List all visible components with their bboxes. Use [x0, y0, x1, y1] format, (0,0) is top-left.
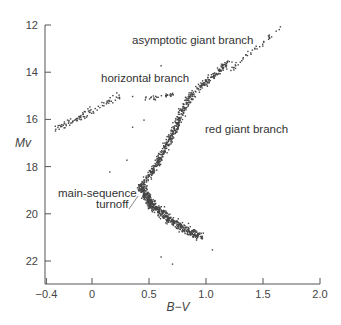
star-point: [199, 85, 200, 86]
star-point: [194, 229, 195, 230]
star-point: [160, 157, 161, 158]
star-point: [168, 134, 169, 135]
star-point: [153, 95, 154, 96]
star-point: [108, 103, 109, 104]
star-point: [151, 210, 152, 211]
star-point: [151, 178, 152, 179]
star-point: [152, 203, 153, 204]
star-point: [163, 153, 164, 154]
star-point: [167, 95, 168, 96]
star-point: [93, 111, 94, 112]
star-point: [174, 223, 175, 224]
star-point: [192, 96, 193, 97]
star-point: [175, 133, 176, 134]
star-point: [84, 111, 85, 112]
star-point: [144, 197, 145, 198]
star-point: [97, 109, 98, 110]
star-point: [160, 218, 161, 219]
star-point: [224, 64, 225, 65]
star-point: [154, 99, 155, 100]
star-point: [262, 44, 263, 45]
star-point: [158, 207, 159, 208]
star-point: [179, 117, 180, 118]
star-point: [184, 225, 185, 226]
star-point: [116, 92, 117, 93]
star-point: [222, 65, 223, 66]
star-point: [143, 193, 144, 194]
star-point: [162, 156, 163, 157]
star-point: [161, 160, 162, 161]
star-point: [91, 113, 92, 114]
star-point: [230, 70, 231, 71]
star-point: [99, 107, 100, 108]
star-point: [79, 118, 80, 119]
star-point: [168, 144, 169, 145]
y-tick-label: 22: [26, 255, 38, 267]
star-point: [179, 231, 180, 232]
star-point: [144, 190, 145, 191]
star-point: [164, 206, 165, 207]
data-points: [55, 26, 282, 265]
star-point: [233, 67, 234, 68]
star-point: [144, 184, 145, 185]
star-point: [199, 232, 200, 233]
star-point: [215, 74, 216, 75]
annotation-turnoff-2: turnoff: [96, 198, 129, 210]
star-point: [168, 219, 169, 220]
star-point: [70, 122, 71, 123]
star-point: [175, 118, 176, 119]
star-point: [162, 213, 163, 214]
star-point: [191, 90, 192, 91]
star-point: [164, 147, 165, 148]
star-point: [168, 214, 169, 215]
star-point: [150, 97, 151, 98]
star-point: [191, 234, 192, 235]
star-point: [163, 217, 164, 218]
star-point: [235, 62, 236, 63]
star-point: [170, 217, 171, 218]
star-point: [166, 212, 167, 213]
star-point: [182, 231, 183, 232]
star-point: [106, 102, 107, 103]
star-point: [90, 109, 91, 110]
star-point: [141, 187, 142, 188]
star-point: [206, 80, 207, 81]
star-point: [195, 86, 196, 87]
star-point: [155, 96, 156, 97]
y-axis-title: Mv: [15, 136, 32, 150]
star-point: [172, 133, 173, 134]
star-point: [201, 236, 202, 237]
star-point: [196, 238, 197, 239]
star-point: [182, 229, 183, 230]
star-point: [181, 226, 182, 227]
star-point: [103, 102, 104, 103]
star-point: [147, 196, 148, 197]
star-point: [69, 125, 70, 126]
star-point: [148, 201, 149, 202]
star-point: [146, 175, 147, 176]
star-point: [162, 148, 163, 149]
star-point: [174, 221, 175, 222]
star-point: [247, 51, 248, 52]
star-point: [93, 112, 94, 113]
star-point: [202, 80, 203, 81]
star-point: [156, 162, 157, 163]
star-point: [200, 89, 201, 90]
star-point: [222, 67, 223, 68]
star-point: [207, 77, 208, 78]
star-point: [167, 218, 168, 219]
star-point: [168, 137, 169, 138]
star-point: [160, 154, 161, 155]
star-point: [176, 225, 177, 226]
star-point: [154, 200, 155, 201]
star-point: [178, 128, 179, 129]
star-point: [146, 180, 147, 181]
star-point: [166, 219, 167, 220]
star-point: [163, 151, 164, 152]
star-point: [176, 221, 177, 222]
star-point: [186, 100, 187, 101]
star-point: [210, 80, 211, 81]
star-point: [176, 228, 177, 229]
star-point: [254, 48, 255, 49]
star-point: [146, 178, 147, 179]
